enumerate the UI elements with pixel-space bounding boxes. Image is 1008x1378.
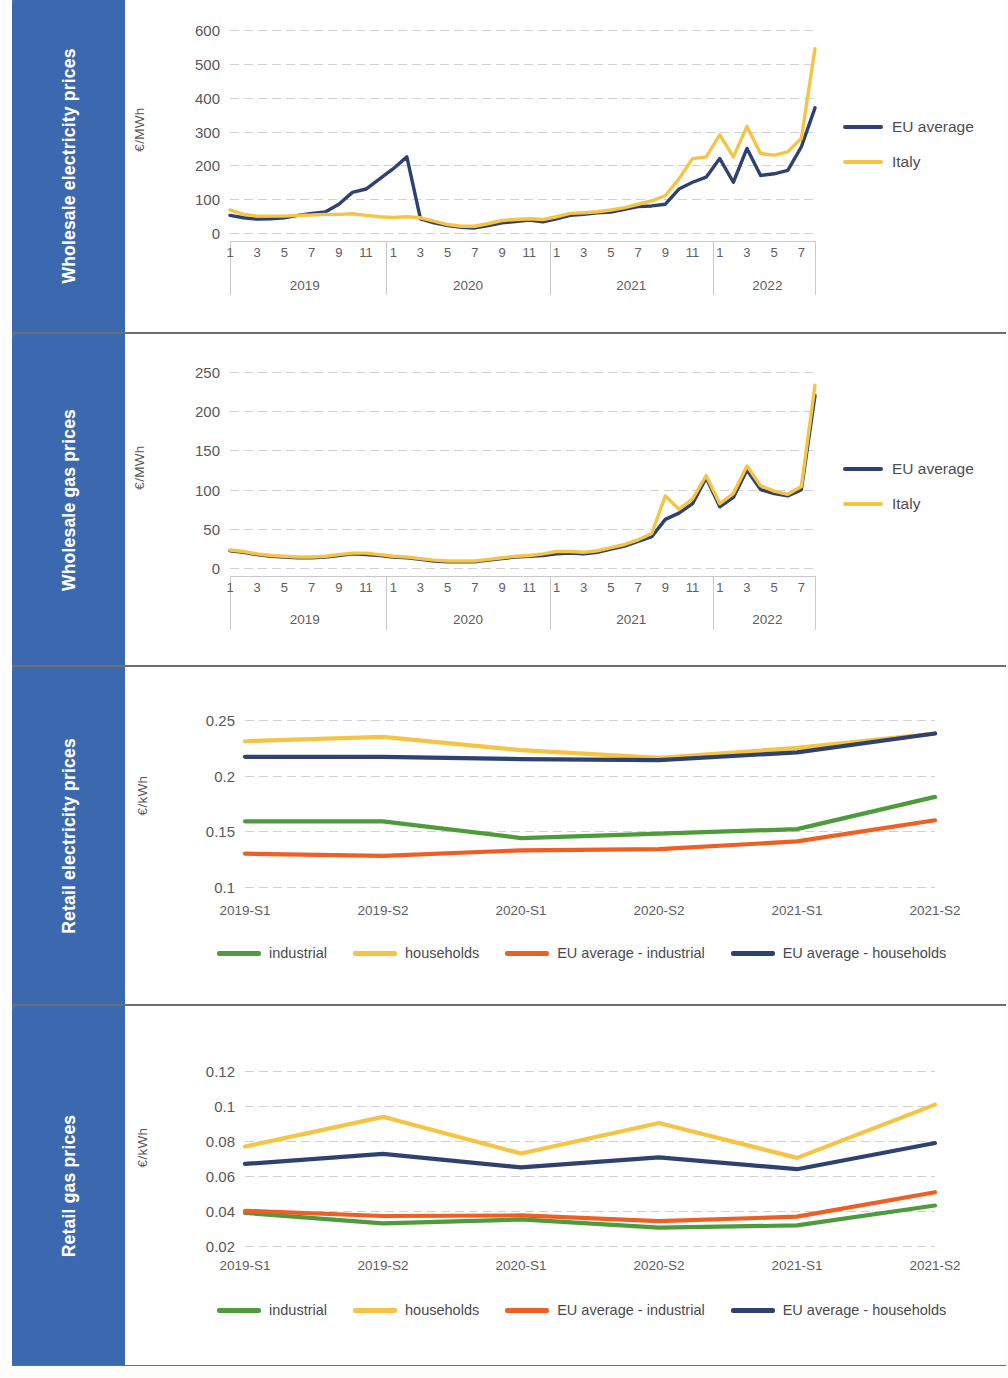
- legend-label: EU average - industrial: [557, 945, 705, 961]
- x-tick-label: 2020-S2: [633, 1258, 684, 1273]
- x-tick-year: 2021: [616, 612, 646, 627]
- legend-label: EU average - industrial: [557, 1302, 705, 1318]
- x-tick-year: 2019: [290, 612, 320, 627]
- x-tick-month: 1: [226, 580, 233, 595]
- legend-swatch: [505, 951, 549, 956]
- x-tick-month: 1: [553, 580, 560, 595]
- x-tick-label: 2021-S1: [771, 903, 822, 918]
- series-eu-average: [230, 396, 815, 562]
- legend-swatch: [843, 160, 883, 165]
- legend-label: households: [405, 945, 479, 961]
- panel-retail-electricity: Retail electricity prices €/kWh0.10.150.…: [12, 666, 1006, 1005]
- legend-label: EU average: [892, 460, 974, 478]
- sidebar-retail-gas: Retail gas prices: [12, 1006, 125, 1365]
- panel-wholesale-gas: Wholesale gas prices €/MWh05010015020025…: [12, 333, 1006, 666]
- legend-item: EU average - industrial: [505, 1302, 705, 1318]
- sidebar-label-retail-electricity: Retail electricity prices: [58, 738, 79, 934]
- x-tick-month: 5: [607, 245, 614, 260]
- x-tick-label: 2021-S1: [771, 1258, 822, 1273]
- series-italy: [230, 49, 815, 227]
- x-tick-label: 2021-S2: [909, 1258, 960, 1273]
- sidebar-wholesale-gas: Wholesale gas prices: [12, 334, 125, 665]
- sidebar-label-wholesale-electricity: Wholesale electricity prices: [58, 48, 79, 283]
- legend-swatch: [505, 1308, 549, 1313]
- series-eu-average-households: [245, 1143, 935, 1169]
- series-eu-average-industrial: [245, 1192, 935, 1221]
- series-italy: [230, 385, 815, 561]
- x-tick-month: 1: [716, 245, 723, 260]
- x-axis-edge-right: [815, 241, 816, 295]
- x-tick-month: 3: [254, 245, 261, 260]
- x-tick-month: 5: [771, 580, 778, 595]
- chart-legend: industrialhouseholdsEU average - industr…: [217, 1302, 946, 1318]
- sidebar-wholesale-electricity: Wholesale electricity prices: [12, 0, 125, 332]
- legend-label: Italy: [892, 495, 920, 513]
- x-group-separator: [713, 241, 714, 295]
- x-tick-month: 1: [716, 580, 723, 595]
- legend-item: EU average - industrial: [505, 945, 705, 961]
- x-tick-month: 5: [281, 245, 288, 260]
- x-tick-label: 2019-S2: [357, 903, 408, 918]
- page-root: Wholesale electricity prices €/MWh010020…: [0, 0, 1008, 1378]
- x-tick-month: 7: [471, 245, 478, 260]
- x-tick-month: 5: [444, 580, 451, 595]
- x-group-separator: [550, 576, 551, 630]
- x-tick-label: 2020-S2: [633, 903, 684, 918]
- legend-label: households: [405, 1302, 479, 1318]
- legend-swatch: [353, 1308, 397, 1313]
- legend-label: EU average: [892, 118, 974, 136]
- x-axis-edge-right: [815, 576, 816, 630]
- sidebar-label-wholesale-gas: Wholesale gas prices: [58, 409, 79, 591]
- x-group-separator: [386, 576, 387, 630]
- x-tick-month: 7: [635, 580, 642, 595]
- legend-label: EU average - households: [783, 945, 947, 961]
- x-tick-month: 1: [390, 580, 397, 595]
- legend-label: industrial: [269, 945, 327, 961]
- x-group-separator: [713, 576, 714, 630]
- x-tick-month: 11: [686, 580, 700, 595]
- legend-item: EU average - households: [731, 945, 947, 961]
- x-group-separator: [386, 241, 387, 295]
- x-axis-line: [230, 576, 815, 577]
- x-tick-month: 9: [335, 245, 342, 260]
- chart-legend: industrialhouseholdsEU average - industr…: [217, 945, 946, 961]
- x-tick-month: 3: [743, 580, 750, 595]
- x-tick-month: 1: [390, 245, 397, 260]
- legend-item: households: [353, 1302, 479, 1318]
- legend-item: industrial: [217, 1302, 327, 1318]
- chart-wholesale-gas: €/MWh05010015020025013579112019135791120…: [125, 334, 1006, 665]
- sidebar-retail-electricity: Retail electricity prices: [12, 667, 125, 1004]
- x-tick-month: 3: [580, 580, 587, 595]
- x-tick-month: 5: [444, 245, 451, 260]
- x-tick-month: 7: [308, 580, 315, 595]
- x-tick-month: 11: [523, 245, 537, 260]
- chart-retail-electricity: €/kWh0.10.150.20.252019-S12019-S22020-S1…: [125, 667, 1006, 1004]
- legend-label: industrial: [269, 1302, 327, 1318]
- legend-swatch: [843, 467, 883, 472]
- legend-label: Italy: [892, 153, 920, 171]
- x-tick-month: 11: [359, 580, 373, 595]
- x-tick-month: 7: [798, 245, 805, 260]
- legend-swatch: [843, 125, 883, 130]
- legend-item: Italy: [843, 495, 974, 513]
- x-tick-label: 2021-S2: [909, 903, 960, 918]
- sidebar-label-retail-gas: Retail gas prices: [58, 1114, 79, 1257]
- x-tick-month: 3: [580, 245, 587, 260]
- x-tick-month: 3: [254, 580, 261, 595]
- legend-item: EU average: [843, 460, 974, 478]
- legend-item: EU average - households: [731, 1302, 947, 1318]
- x-tick-month: 3: [743, 245, 750, 260]
- x-tick-month: 3: [417, 245, 424, 260]
- x-tick-month: 9: [662, 580, 669, 595]
- x-tick-label: 2020-S1: [495, 1258, 546, 1273]
- x-tick-month: 9: [335, 580, 342, 595]
- panel-wholesale-electricity: Wholesale electricity prices €/MWh010020…: [12, 0, 1006, 333]
- x-tick-month: 7: [798, 580, 805, 595]
- series-eu-average: [230, 108, 815, 228]
- x-tick-month: 7: [308, 245, 315, 260]
- chart-wholesale-electricity: €/MWh01002003004005006001357911201913579…: [125, 0, 1006, 332]
- x-tick-month: 9: [662, 245, 669, 260]
- x-tick-month: 9: [498, 245, 505, 260]
- x-tick-month: 11: [686, 245, 700, 260]
- x-tick-year: 2022: [752, 612, 782, 627]
